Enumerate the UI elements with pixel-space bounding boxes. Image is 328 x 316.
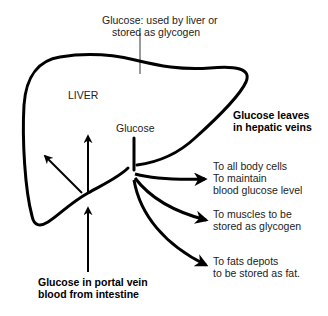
portal-vein-line2: blood from intestine (38, 288, 148, 300)
hepatic-veins-label: Glucose leaves in hepatic veins (233, 109, 312, 133)
hepatic-veins-line1: Glucose leaves (233, 109, 312, 121)
portal-vein-label: Glucose in portal vein blood from intest… (38, 276, 148, 300)
top-note-line1: Glucose: used by liver or (102, 14, 218, 26)
destination-body-cells-line3: blood glucose level (213, 184, 302, 196)
arrow-to-body-cells-icon (135, 174, 205, 179)
destination-muscles-line2: stored as glycogen (213, 220, 301, 232)
destination-muscles: To muscles to be stored as glycogen (213, 208, 301, 232)
destination-fat-depots: To fats depots to be stored as fat. (213, 255, 300, 279)
destination-fat-depots-line2: to be stored as fat. (213, 267, 300, 279)
destination-body-cells-line1: To all body cells (213, 160, 302, 172)
top-note-line2: stored as glycogen (102, 26, 218, 38)
destination-muscles-line1: To muscles to be (213, 208, 301, 220)
destination-body-cells-line2: To maintain (213, 172, 302, 184)
center-glucose-label: Glucose (116, 122, 155, 134)
portal-vein-line1: Glucose in portal vein (38, 276, 148, 288)
portal-arrow-diagonal-icon (45, 156, 82, 193)
top-note: Glucose: used by liver or stored as glyc… (102, 14, 218, 38)
destination-fat-depots-line1: To fats depots (213, 255, 300, 267)
hepatic-veins-line2: in hepatic veins (233, 121, 312, 133)
arrow-to-fat-depots-icon (134, 180, 206, 265)
organ-label: LIVER (68, 89, 98, 101)
destination-body-cells: To all body cells To maintain blood gluc… (213, 160, 302, 196)
